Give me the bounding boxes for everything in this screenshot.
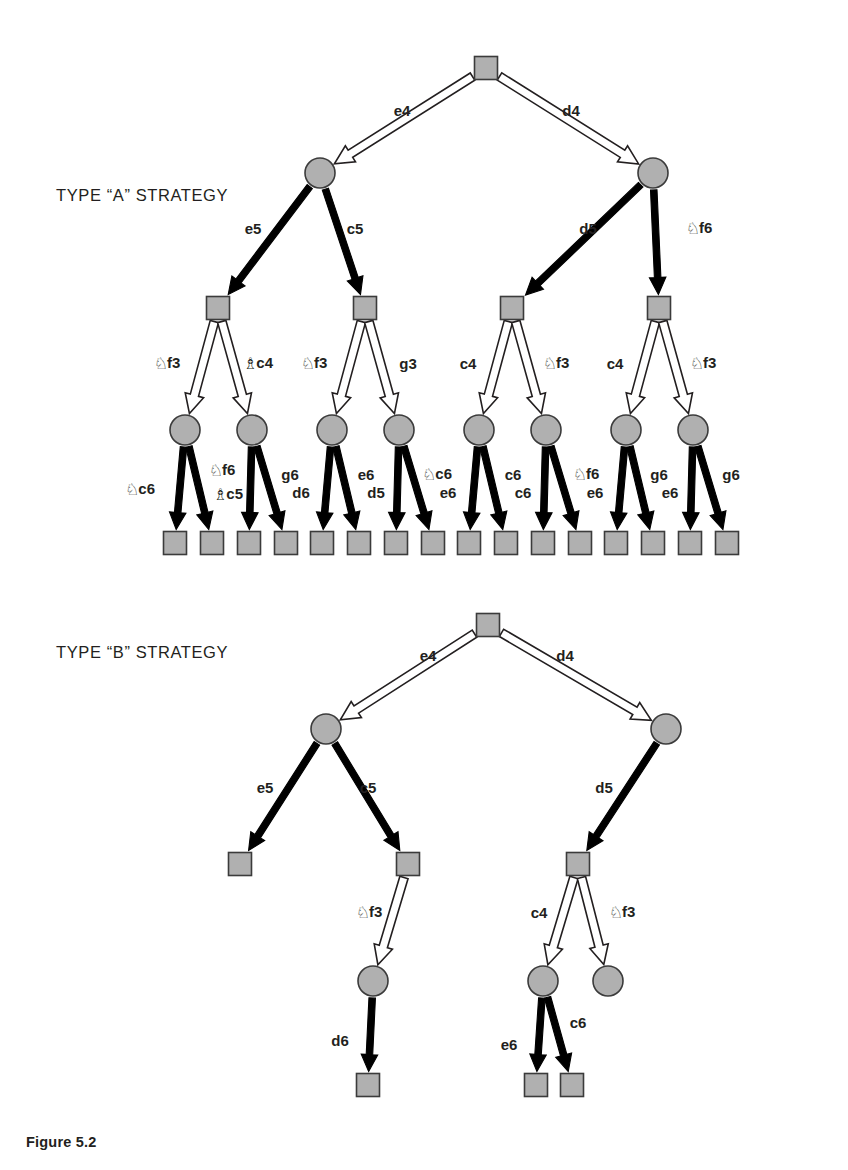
black-move-arrow	[463, 447, 480, 530]
square-node	[201, 532, 224, 555]
black-move-arrow	[610, 447, 627, 530]
circle-node	[528, 966, 558, 996]
square-node	[679, 532, 702, 555]
black-move-arrow	[254, 445, 285, 529]
black-move-arrow	[627, 446, 654, 530]
square-node	[525, 1074, 548, 1097]
black-move-arrow	[361, 998, 377, 1072]
square-node	[495, 532, 518, 555]
square-node	[357, 1074, 380, 1097]
black-move-arrow	[401, 445, 432, 529]
circle-node	[358, 966, 388, 996]
circle-node	[593, 966, 623, 996]
square-node	[354, 297, 377, 320]
square-node	[348, 532, 371, 555]
figure-caption: Figure 5.2	[26, 1134, 97, 1150]
white-move-arrow	[659, 320, 693, 413]
square-node	[605, 532, 628, 555]
square-node	[642, 532, 665, 555]
white-move-arrow	[185, 320, 218, 413]
black-move-arrow	[683, 447, 700, 530]
black-move-arrow	[322, 188, 363, 294]
circle-node	[237, 415, 267, 445]
circle-node	[464, 415, 494, 445]
white-move-arrow	[479, 320, 512, 413]
white-move-arrow	[626, 320, 659, 413]
black-move-arrow	[228, 185, 312, 295]
white-move-arrow	[374, 876, 408, 964]
black-move-arrow	[526, 182, 643, 295]
square-node	[567, 853, 590, 876]
strategy-tree-canvas	[0, 0, 848, 1170]
black-move-arrow	[249, 742, 320, 851]
black-move-arrow	[695, 445, 726, 529]
square-node	[569, 532, 592, 555]
square-node	[397, 853, 420, 876]
white-move-arrow	[334, 73, 474, 164]
white-move-arrow	[512, 320, 546, 413]
square-node	[458, 532, 481, 555]
circle-node	[317, 415, 347, 445]
black-move-arrow	[587, 741, 660, 850]
type-a-strategy-label: TYPE “A” STRATEGY	[56, 186, 228, 205]
black-move-arrow	[480, 446, 507, 530]
square-node	[207, 297, 230, 320]
black-move-arrow	[186, 446, 213, 530]
type-b-nodes	[229, 614, 682, 1097]
type-b-strategy-label: TYPE “B” STRATEGY	[56, 643, 228, 662]
black-move-arrow	[169, 447, 186, 530]
black-move-arrow	[242, 447, 259, 530]
circle-node	[611, 415, 641, 445]
black-move-arrow	[536, 447, 553, 530]
square-node	[561, 1074, 584, 1097]
figure-5-2: TYPE “A” STRATEGY TYPE “B” STRATEGY e4d4…	[0, 0, 848, 1170]
black-move-arrow	[548, 445, 579, 529]
black-move-arrow	[333, 446, 360, 530]
white-move-arrow	[332, 320, 365, 413]
white-move-arrow	[340, 630, 476, 720]
square-node	[229, 853, 252, 876]
black-move-arrow	[316, 447, 333, 530]
white-move-arrow	[577, 876, 608, 964]
square-node	[275, 532, 298, 555]
circle-node	[651, 714, 681, 744]
square-node	[385, 532, 408, 555]
square-node	[501, 297, 524, 320]
white-move-arrow	[544, 876, 578, 964]
square-node	[648, 297, 671, 320]
circle-node	[384, 415, 414, 445]
square-node	[311, 532, 334, 555]
white-move-arrow	[499, 629, 651, 720]
circle-node	[170, 415, 200, 445]
type-a-edges	[169, 73, 725, 530]
black-move-arrow	[530, 998, 546, 1072]
square-node	[532, 532, 555, 555]
circle-node	[638, 158, 668, 188]
white-move-arrow	[497, 73, 638, 164]
square-node	[238, 532, 261, 555]
circle-node	[311, 714, 341, 744]
white-move-arrow	[218, 320, 252, 413]
circle-node	[531, 415, 561, 445]
black-move-arrow	[544, 997, 571, 1072]
black-move-arrow	[649, 190, 665, 295]
white-move-arrow	[365, 320, 399, 413]
circle-node	[678, 415, 708, 445]
square-node	[716, 532, 739, 555]
square-node	[422, 532, 445, 555]
black-move-arrow	[389, 447, 406, 530]
black-move-arrow	[332, 742, 400, 851]
type-b-edges	[249, 629, 660, 1071]
circle-node	[305, 158, 335, 188]
square-node	[164, 532, 187, 555]
square-node	[475, 57, 498, 80]
square-node	[477, 614, 500, 637]
